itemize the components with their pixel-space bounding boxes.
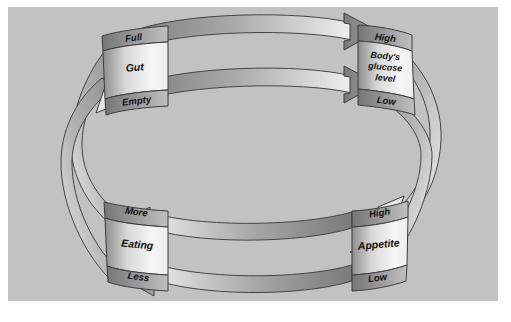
node-gut-center-label: Gut	[125, 60, 144, 73]
node-glucose[interactable]: High Body's glucose level Low	[358, 25, 415, 115]
cycle-diagram-figure: Full Gut Empty High Body's glucose level…	[0, 0, 511, 322]
connection-empty-to-low-glucose	[135, 66, 378, 103]
node-gut[interactable]: Full Gut Empty	[102, 26, 168, 115]
node-appetite[interactable]: High Appetite Low	[352, 201, 408, 291]
node-glucose-center-line-3: level	[375, 72, 396, 84]
diagram-canvas: Full Gut Empty High Body's glucose level…	[0, 0, 511, 322]
node-eating[interactable]: More Eating Less	[104, 202, 168, 291]
node-gut-top-label: Full	[125, 31, 143, 44]
